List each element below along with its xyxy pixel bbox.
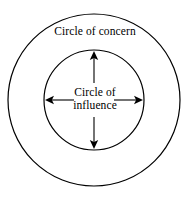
arrow-down-icon — [90, 117, 98, 149]
inner-circle-label-line1: Circle of — [0, 86, 190, 99]
outer-circle-label: Circle of concern — [0, 25, 190, 38]
arrow-up-icon — [90, 51, 98, 83]
inner-circle-label-line2: influence — [0, 99, 190, 112]
inner-circle-label: Circle of influence — [0, 86, 190, 112]
concentric-circles-diagram: Circle of concern Circle of influence — [0, 0, 190, 202]
